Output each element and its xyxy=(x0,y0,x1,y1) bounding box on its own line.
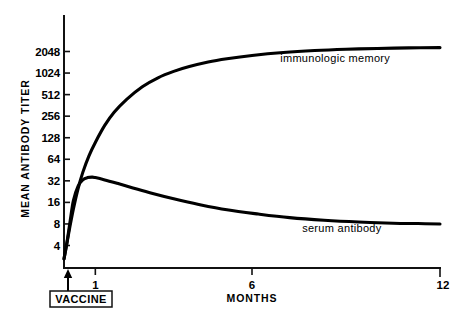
y-axis-title: MEAN ANTIBODY TITER xyxy=(19,79,31,217)
y-tick-label: 512 xyxy=(41,89,60,101)
curve-serum-antibody xyxy=(64,177,440,259)
y-axis-tick-labels: 4816326412825651210242048 xyxy=(35,46,61,252)
y-tick-label: 256 xyxy=(41,110,60,122)
x-tick-label: 12 xyxy=(437,279,450,291)
series-label-serum-antibody: serum antibody xyxy=(302,222,382,234)
series-group xyxy=(64,48,440,259)
y-tick-label: 1024 xyxy=(35,67,61,79)
x-tick-label: 6 xyxy=(249,279,255,291)
x-tick-label: 1 xyxy=(92,279,99,291)
y-tick-label: 64 xyxy=(48,153,61,165)
series-labels: immunologic memory serum antibody xyxy=(280,52,390,234)
figure-root: 4816326412825651210242048 1612 immunolog… xyxy=(0,0,468,322)
series-label-immunologic-memory: immunologic memory xyxy=(280,52,390,64)
y-tick-label: 8 xyxy=(54,218,61,230)
antibody-titer-chart: 4816326412825651210242048 1612 immunolog… xyxy=(0,0,468,322)
curve-immunologic-memory xyxy=(64,48,440,259)
y-tick-label: 128 xyxy=(41,132,60,144)
x-axis-title: MONTHS xyxy=(227,292,278,304)
y-tick-label: 2048 xyxy=(35,46,61,58)
x-axis-ticks xyxy=(95,268,440,277)
vaccine-callout: VACCINE xyxy=(50,269,112,307)
vaccine-arrow-head-icon xyxy=(64,269,72,278)
vaccine-callout-label: VACCINE xyxy=(55,293,107,305)
y-tick-label: 4 xyxy=(54,240,61,252)
y-tick-label: 16 xyxy=(48,196,60,208)
x-axis-tick-labels: 1612 xyxy=(92,279,449,291)
y-tick-label: 32 xyxy=(48,175,60,187)
